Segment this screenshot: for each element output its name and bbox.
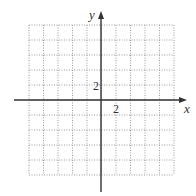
x-axis-label: x: [183, 101, 190, 116]
coordinate-plane: y x 2 2: [0, 0, 196, 196]
x-tick-label: 2: [113, 102, 119, 116]
y-axis: [98, 11, 104, 192]
y-tick-label: 2: [93, 79, 99, 93]
y-axis-label: y: [87, 7, 95, 22]
y-axis-arrow-icon: [98, 11, 104, 19]
